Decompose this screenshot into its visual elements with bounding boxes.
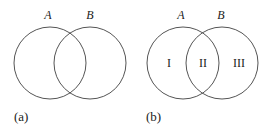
region-i-label: I: [167, 56, 171, 70]
panel-b-caption: (b): [146, 109, 161, 124]
set-a-label: A: [176, 8, 185, 22]
set-b-circle: [186, 27, 258, 99]
set-a-label: A: [43, 8, 52, 22]
set-b-label: B: [217, 8, 225, 22]
set-a-circle: [14, 27, 86, 99]
region-iii-label: III: [233, 56, 245, 70]
region-ii-label: II: [199, 56, 207, 70]
panel-a-caption: (a): [14, 109, 28, 124]
set-b-circle: [54, 27, 126, 99]
set-b-label: B: [86, 8, 94, 22]
venn-diagram-figure: A B (a) A B I II III (b): [0, 0, 268, 132]
panel-a: A B (a): [14, 8, 126, 124]
set-a-circle: [147, 27, 219, 99]
panel-b: A B I II III (b): [146, 8, 258, 124]
